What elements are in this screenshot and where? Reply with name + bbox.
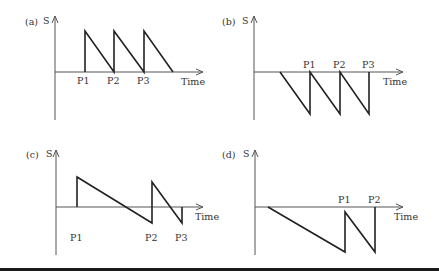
bottom-rule [0, 268, 439, 271]
tick-label-p3: P3 [137, 75, 149, 86]
x-axis-label: Time [181, 76, 205, 87]
tick-label-p1: P1 [77, 75, 89, 86]
tick-label-p1: P1 [303, 59, 315, 70]
panel-label: (d) [222, 149, 236, 160]
y-axis-label: S [242, 15, 249, 26]
x-axis-label: Time [394, 211, 418, 222]
tick-label-p2: P2 [107, 75, 119, 86]
panel-label: (c) [26, 149, 39, 160]
sawtooth-line [268, 207, 375, 252]
panel-a: (a) S P1 P2 P3 Time [25, 15, 205, 120]
panel-b: (b) S P1 P2 P3 Time [222, 15, 407, 120]
tick-label-p2: P2 [368, 194, 380, 205]
panel-c: (c) S P1 P2 P3 Time [26, 148, 219, 255]
y-axis-label: S [43, 15, 50, 26]
tick-label-p3: P3 [362, 59, 374, 70]
sawtooth-line [280, 72, 369, 114]
sawtooth-line [77, 177, 182, 223]
tick-label-p1: P1 [338, 194, 350, 205]
sawtooth-diagram: (a) S P1 P2 P3 Time (b) S P1 P2 P3 Time … [0, 0, 439, 272]
tick-label-p3: P3 [175, 232, 187, 243]
panel-d: (d) S P1 P2 Time [222, 148, 418, 255]
panel-label: (b) [222, 16, 236, 27]
tick-label-p2: P2 [145, 232, 157, 243]
panel-label: (a) [25, 16, 38, 27]
sawtooth-line [85, 31, 173, 72]
tick-label-p2: P2 [333, 59, 345, 70]
x-axis-label: Time [195, 211, 219, 222]
y-axis-label: S [243, 148, 250, 159]
y-axis-label: S [46, 148, 53, 159]
tick-label-p1: P1 [70, 232, 82, 243]
x-axis-label: Time [383, 76, 407, 87]
